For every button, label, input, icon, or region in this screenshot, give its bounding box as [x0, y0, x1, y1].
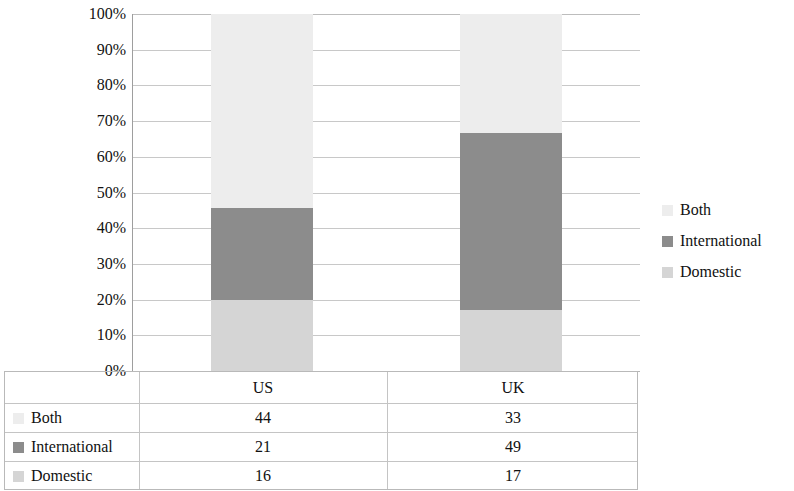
- y-axis-tick-label: 70%: [60, 113, 126, 129]
- y-axis-tick-label: 80%: [60, 77, 126, 93]
- table-swatch-icon: [13, 471, 24, 482]
- table-cell-value: 44: [139, 409, 387, 427]
- bar-uk: [460, 14, 562, 371]
- table-cell-value: 49: [387, 438, 639, 456]
- table-cell-value: 16: [139, 467, 387, 485]
- bars-layer: [132, 14, 640, 371]
- y-axis-tick-label: 10%: [60, 327, 126, 343]
- table-row-label-international: International: [31, 438, 113, 456]
- legend-label: Domestic: [680, 262, 741, 282]
- table-cell-value: 33: [387, 409, 639, 427]
- table-cell-value: 21: [139, 438, 387, 456]
- y-axis-tick-label: 40%: [60, 220, 126, 236]
- bar-segment-uk-both: [460, 14, 562, 133]
- table-row-divider: [5, 403, 637, 404]
- y-axis-tick-label: 100%: [60, 6, 126, 22]
- chart-data-table: USUKBoth4433International2149Domestic161…: [4, 371, 638, 490]
- table-cell-value: 17: [387, 467, 639, 485]
- stacked-bar-chart: 100%90%80%70%60%50%40%30%20%10%0% BothIn…: [0, 0, 794, 491]
- table-swatch-icon: [13, 442, 24, 453]
- y-axis-tick-label: 90%: [60, 42, 126, 58]
- y-axis-tick-label: 30%: [60, 256, 126, 272]
- bar-us: [211, 14, 313, 371]
- legend-swatch-icon: [662, 267, 673, 278]
- legend-swatch-icon: [662, 205, 673, 216]
- table-row-label-domestic: Domestic: [31, 467, 92, 485]
- bar-segment-us-domestic: [211, 300, 313, 371]
- y-axis-tick-label: 20%: [60, 292, 126, 308]
- table-header-us: US: [139, 379, 387, 397]
- bar-segment-uk-international: [460, 133, 562, 310]
- y-axis-tick-label: 50%: [60, 185, 126, 201]
- legend-swatch-icon: [662, 236, 673, 247]
- table-swatch-icon: [13, 413, 24, 424]
- y-axis-tick-label: 60%: [60, 149, 126, 165]
- table-row-divider: [5, 432, 637, 433]
- bar-segment-us-international: [211, 208, 313, 301]
- table-header-uk: UK: [387, 379, 639, 397]
- bar-segment-uk-domestic: [460, 310, 562, 371]
- table-row-label-both: Both: [31, 409, 62, 427]
- legend-label: Both: [680, 200, 711, 220]
- legend-label: International: [680, 231, 762, 251]
- table-row-divider: [5, 461, 637, 462]
- bar-segment-us-both: [211, 14, 313, 208]
